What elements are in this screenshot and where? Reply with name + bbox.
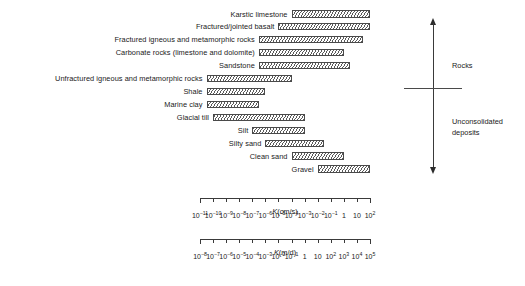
axis-tick xyxy=(213,198,214,202)
group-label-unconsolidated-line2: deposits xyxy=(452,128,480,138)
material-range-bar xyxy=(292,152,344,160)
group-crossbar xyxy=(404,88,462,89)
material-row: Fractured/jointed basalt xyxy=(278,22,370,33)
hydraulic-conductivity-figure: Karstic limestoneFractured/jointed basal… xyxy=(0,0,525,286)
material-row: Silty sand xyxy=(265,139,324,150)
material-label: Gravel xyxy=(292,166,318,173)
axis-tick xyxy=(252,239,253,243)
axis-tick xyxy=(305,239,306,243)
material-range-bar xyxy=(252,127,304,135)
material-range-bar xyxy=(265,140,324,148)
group-label-rocks: Rocks xyxy=(452,61,473,71)
material-row: Silt xyxy=(252,126,304,137)
material-range-bar xyxy=(213,114,305,122)
axis-tick xyxy=(331,239,332,243)
material-row: Gravel xyxy=(318,164,370,175)
material-range-bar xyxy=(318,165,370,173)
material-row: Carbonate rocks (limestone and dolomite) xyxy=(259,48,344,59)
axis-tick xyxy=(226,198,227,202)
axis-tick xyxy=(226,239,227,243)
material-label: Karstic limestone xyxy=(230,11,291,18)
material-label: Silt xyxy=(238,127,252,134)
arrow-down-icon xyxy=(430,167,436,174)
group-label-unconsolidated-line1: Unconsolidated xyxy=(452,117,503,127)
axis-unit-cm-per-s: (cm/s) xyxy=(277,207,298,216)
material-range-bar xyxy=(278,23,370,31)
group-divider: Rocks Unconsolidated deposits xyxy=(433,18,434,174)
material-label: Fractured/jointed basalt xyxy=(196,24,278,31)
axis-tick xyxy=(265,239,266,243)
material-range-bar xyxy=(207,101,259,109)
material-row: Fractured igneous and metamorphic rocks xyxy=(259,35,364,46)
axis-cap-right xyxy=(370,198,371,203)
axis-tick xyxy=(252,198,253,202)
axis-caption-m-per-d: K(m/d) xyxy=(200,249,370,256)
material-label: Clean sand xyxy=(250,153,292,160)
axis-tick xyxy=(239,198,240,202)
group-axis-line xyxy=(433,23,434,169)
material-range-bar xyxy=(207,88,266,96)
axis-caption-cm-per-s: K(cm/s) xyxy=(200,208,370,215)
axis-tick xyxy=(265,198,266,202)
axis-cap-left xyxy=(200,198,201,203)
material-label: Silty sand xyxy=(229,140,266,147)
axis-tick xyxy=(344,239,345,243)
axis-tick xyxy=(344,198,345,202)
axis-tick xyxy=(292,198,293,202)
material-label: Marine clay xyxy=(164,101,206,108)
axis-tick xyxy=(357,198,358,202)
material-label: Shale xyxy=(183,88,206,95)
material-range-bar xyxy=(259,36,364,44)
axis-cap-right xyxy=(370,239,371,244)
axis-tick xyxy=(318,198,319,202)
material-row: Shale xyxy=(207,87,266,98)
material-label: Fractured igneous and metamorphic rocks xyxy=(114,37,258,44)
axis-unit-m-per-d: (m/d) xyxy=(279,248,296,257)
axis-k-m-per-d: 10−810−710−610−510−410−310−210−111010210… xyxy=(200,239,370,261)
material-range-bar xyxy=(259,49,344,57)
material-row: Sandstone xyxy=(259,61,351,72)
axis-k-cm-per-s: 10−1110−1010−910−810−710−610−510−410−310… xyxy=(200,198,370,220)
material-range-bar xyxy=(292,10,370,18)
material-row: Glacial till xyxy=(213,113,305,124)
material-label: Glacial till xyxy=(177,114,213,121)
axis-tick xyxy=(278,239,279,243)
material-row: Clean sand xyxy=(292,151,344,162)
material-row: Unfractured igneous and metamorphic rock… xyxy=(207,74,292,85)
material-range-bar xyxy=(259,62,351,70)
axis-tick xyxy=(331,198,332,202)
material-label: Sandstone xyxy=(219,63,259,70)
axis-tick xyxy=(239,239,240,243)
material-range-bar xyxy=(207,75,292,83)
axis-cap-left xyxy=(200,239,201,244)
material-row: Karstic limestone xyxy=(292,9,370,20)
axis-tick xyxy=(305,198,306,202)
axis-tick xyxy=(278,198,279,202)
axis-tick xyxy=(213,239,214,243)
axis-tick xyxy=(292,239,293,243)
axis-tick xyxy=(357,239,358,243)
axis-tick xyxy=(318,239,319,243)
material-row: Marine clay xyxy=(207,100,259,111)
material-label: Unfractured igneous and metamorphic rock… xyxy=(55,76,206,83)
material-label: Carbonate rocks (limestone and dolomite) xyxy=(116,50,259,57)
